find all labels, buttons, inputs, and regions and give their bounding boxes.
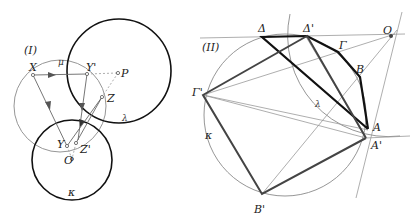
point-o-ii-label: O [383, 24, 392, 37]
point-x-label: X [28, 61, 38, 74]
geometry-figure: (I) X μ Y' P Z λ Y Z' O κ (II) Δ Δ [0, 0, 418, 218]
point-delta-label: Δ [257, 22, 266, 35]
figure-two-label: (II) [202, 41, 219, 54]
point-a-prime-label: A' [370, 139, 382, 152]
circle-lambda-ii-label: λ [314, 99, 321, 109]
point-b-label: B [355, 63, 364, 76]
figure-two: (II) Δ Δ' O Γ B Γ' λ κ A A' B' [191, 12, 410, 216]
point-gamma-prime-label: Γ' [191, 86, 203, 99]
point-y-label: Y [57, 138, 66, 151]
circle-kappa-label: κ [67, 186, 76, 199]
point-o-label: O [64, 154, 73, 167]
point-gamma-label: Γ [338, 39, 347, 52]
point-y-prime-label: Y' [86, 61, 96, 74]
circle-lambda-label: λ [121, 113, 128, 123]
point-z-prime-label: Z' [79, 143, 91, 156]
figure-one: (I) X μ Y' P Z λ Y Z' O κ [14, 19, 171, 200]
point-p-label: P [120, 67, 129, 80]
point-z-label: Z [106, 92, 115, 105]
point-b-prime-label: B' [253, 203, 265, 216]
circle-kappa-ii-label: κ [204, 129, 213, 142]
circle-mu-label: μ [58, 57, 64, 67]
figure-one-label: (I) [24, 44, 37, 57]
point-delta-prime-label: Δ' [302, 22, 314, 35]
point-a-label: A [372, 121, 381, 134]
